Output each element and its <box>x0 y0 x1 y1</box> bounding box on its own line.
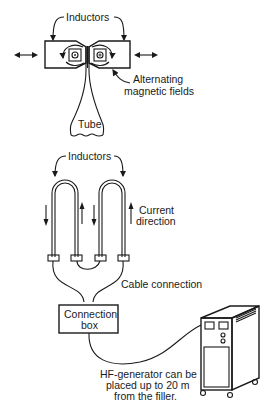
cable-right <box>93 261 123 302</box>
induction-sealing-diagram: Inductors <box>0 0 279 416</box>
right-inductor-jaw <box>89 41 130 68</box>
left-motion-arrow-icon <box>14 52 38 58</box>
jumper-cable <box>77 261 100 269</box>
generator-cable <box>89 325 201 364</box>
right-motion-arrow-icon <box>134 52 158 58</box>
left-inductor-jaw <box>45 41 86 68</box>
top-inductor-assembly: Inductors <box>14 11 194 136</box>
top-inductors-leader-right <box>114 17 124 40</box>
generator-wheel <box>201 391 206 396</box>
magnetic-fields-label-line1: Alternating <box>133 73 183 85</box>
terminal-1 <box>48 255 59 261</box>
generator-display-left <box>205 322 214 329</box>
magnetic-fields-label-line2: magnetic fields <box>124 85 194 97</box>
generator-display-right <box>219 322 228 329</box>
top-inductors-label: Inductors <box>66 11 109 23</box>
current-direction-label-line2: direction <box>136 215 176 227</box>
hairpin-inductor-2 <box>99 180 125 257</box>
bottom-inductors-leader-left <box>55 156 66 176</box>
cable-connection-label: Cable connection <box>121 278 202 290</box>
right-field-arc-icon <box>92 45 112 58</box>
bottom-inductors-label: Inductors <box>68 150 111 162</box>
generator-wheel <box>228 393 233 398</box>
current-arrow-down-1-icon <box>44 205 49 226</box>
connection-box-label-line2: box <box>81 319 99 331</box>
terminal-4 <box>118 255 129 261</box>
terminal-3 <box>95 255 106 261</box>
current-arrow-up-2-icon <box>80 202 85 224</box>
magnetic-fields-leader <box>113 70 130 83</box>
left-field-arc-icon <box>63 45 83 58</box>
generator-lower-panel <box>204 347 229 387</box>
generator-knob-1 <box>221 333 225 337</box>
top-inductors-leader-left <box>53 17 64 40</box>
current-arrow-up-4-icon <box>129 202 134 224</box>
terminal-2 <box>71 255 82 261</box>
current-arrow-down-3-icon <box>92 205 97 226</box>
bottom-inductors-leader-right <box>114 156 123 176</box>
generator-knob-2 <box>221 339 225 343</box>
hf-generator <box>201 306 260 398</box>
bottom-system-assembly: Inductors <box>44 150 260 402</box>
generator-note-line3: from the filler. <box>114 390 177 402</box>
hairpin-inductor-1 <box>52 180 78 257</box>
tube-label: Tube <box>78 118 102 130</box>
